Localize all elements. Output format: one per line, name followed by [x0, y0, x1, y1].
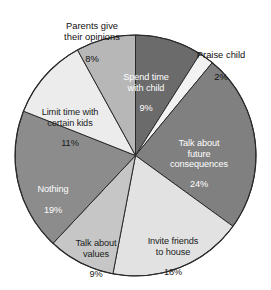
slice-label-text: Parents give their opinions — [45, 20, 139, 42]
slice-label-text: Praise child — [178, 49, 264, 60]
slice-label-value: 2% — [178, 71, 264, 82]
slice-label-parents-give-their-opinions: Parents give their opinions 8% — [45, 9, 139, 76]
slice-label-praise-child: Praise child 2% — [178, 38, 264, 93]
pie-chart: Spend time with child 9% Praise child 2%… — [0, 0, 271, 290]
slice-label-value: 8% — [45, 53, 139, 64]
